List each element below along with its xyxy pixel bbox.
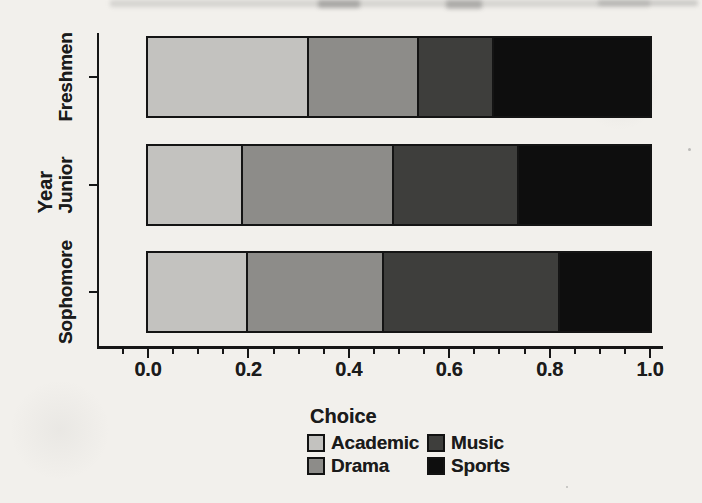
bar-segment-sophomore-music xyxy=(384,253,560,331)
x-axis-major-tick xyxy=(147,348,149,358)
bar-segment-sophomore-academic xyxy=(148,253,248,331)
bar-row-sophomore xyxy=(146,251,652,333)
y-axis-line xyxy=(97,33,99,349)
x-axis-tick-label-0-0: 0.0 xyxy=(135,358,162,381)
legend-title: Choice xyxy=(310,405,377,428)
scan-smudge-band xyxy=(110,0,650,7)
legend-swatch-music xyxy=(427,434,445,452)
bar-row-junior xyxy=(146,144,652,226)
x-axis-major-tick xyxy=(448,348,450,358)
x-axis-tick-label-1-0: 1.0 xyxy=(637,358,664,381)
scan-smudge-blob-3 xyxy=(598,0,698,6)
y-category-label-junior: Junior xyxy=(55,157,77,214)
scan-speck-2 xyxy=(566,486,568,488)
y-axis-tick-sophomore xyxy=(89,291,97,293)
scan-smudge-blob-2 xyxy=(446,0,482,9)
bar-segment-freshmen-drama xyxy=(309,38,419,116)
x-axis-minor-tick xyxy=(498,348,500,354)
y-axis-tick-freshmen xyxy=(89,76,97,78)
legend-item-music: Music xyxy=(427,432,504,454)
x-axis-tick-label-0-2: 0.2 xyxy=(235,358,262,381)
bar-row-freshmen xyxy=(146,36,652,118)
x-axis-minor-tick xyxy=(222,348,224,354)
x-axis-major-tick xyxy=(247,348,249,358)
x-axis-tick-label-0-6: 0.6 xyxy=(436,358,463,381)
x-axis-minor-tick xyxy=(624,348,626,354)
x-axis-line xyxy=(97,346,663,349)
legend-label-academic: Academic xyxy=(331,432,419,454)
bar-segment-junior-music xyxy=(394,146,520,224)
bar-segment-sophomore-sports xyxy=(560,253,650,331)
bar-segment-junior-sports xyxy=(519,146,650,224)
legend-label-sports: Sports xyxy=(451,455,510,477)
legend-swatch-sports xyxy=(427,457,445,475)
scanned-chart-page: Year FreshmenJuniorSophomore 0.00.20.40.… xyxy=(0,0,702,503)
bar-segment-freshmen-music xyxy=(419,38,494,116)
scan-smudge-blob-1 xyxy=(318,0,360,8)
y-category-label-freshmen: Freshmen xyxy=(55,32,77,121)
x-axis-minor-tick xyxy=(473,348,475,354)
x-axis-minor-tick xyxy=(122,348,124,354)
legend-label-drama: Drama xyxy=(331,455,389,477)
x-axis-tick-label-0-8: 0.8 xyxy=(536,358,563,381)
bar-segment-freshmen-sports xyxy=(494,38,650,116)
x-axis-major-tick xyxy=(549,348,551,358)
bar-segment-junior-academic xyxy=(148,146,243,224)
bar-segment-freshmen-academic xyxy=(148,38,309,116)
x-axis-minor-tick xyxy=(599,348,601,354)
y-category-label-sophomore: Sophomore xyxy=(55,240,77,344)
x-axis-minor-tick xyxy=(423,348,425,354)
x-axis-minor-tick xyxy=(373,348,375,354)
legend-swatch-drama xyxy=(307,457,325,475)
legend-item-sports: Sports xyxy=(427,455,510,477)
legend-item-academic: Academic xyxy=(307,432,419,454)
x-axis-minor-tick xyxy=(524,348,526,354)
x-axis-minor-tick xyxy=(323,348,325,354)
bar-segment-junior-drama xyxy=(243,146,394,224)
x-axis-minor-tick xyxy=(172,348,174,354)
scan-speck-1 xyxy=(688,148,691,151)
x-axis-minor-tick xyxy=(398,348,400,354)
bar-segment-sophomore-drama xyxy=(248,253,384,331)
legend-label-music: Music xyxy=(451,432,504,454)
x-axis-minor-tick xyxy=(574,348,576,354)
x-axis-minor-tick xyxy=(298,348,300,354)
y-axis-tick-junior xyxy=(89,184,97,186)
x-axis-major-tick xyxy=(649,348,651,358)
y-axis-title: Year xyxy=(34,171,57,213)
legend-swatch-academic xyxy=(307,434,325,452)
x-axis-minor-tick xyxy=(273,348,275,354)
x-axis-major-tick xyxy=(348,348,350,358)
legend-item-drama: Drama xyxy=(307,455,389,477)
x-axis-minor-tick xyxy=(197,348,199,354)
x-axis-tick-label-0-4: 0.4 xyxy=(335,358,362,381)
